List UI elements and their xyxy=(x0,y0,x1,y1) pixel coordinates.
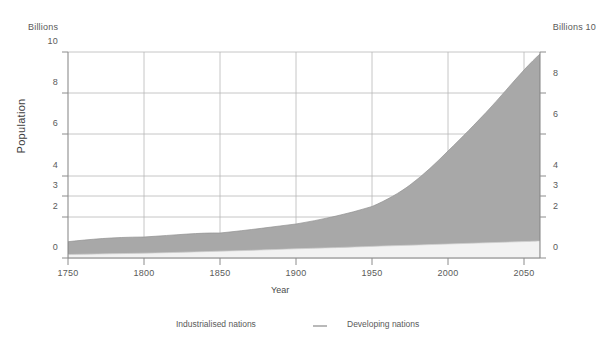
x-axis-ticks xyxy=(68,258,524,265)
y-tick-left-4: 4 xyxy=(36,160,58,170)
chart-canvas xyxy=(0,0,604,355)
line-marker-icon xyxy=(313,325,327,327)
legend-item-industrialised: Industrialised nations xyxy=(176,319,256,329)
x-tick-1900: 1900 xyxy=(276,268,316,278)
x-tick-2050: 2050 xyxy=(504,268,544,278)
population-area-chart: Billions Billions 10 10 8 6 4 3 2 0 8 6 … xyxy=(0,0,604,355)
x-tick-1750: 1750 xyxy=(48,268,88,278)
y-tick-left-10: 10 xyxy=(36,36,58,46)
y-tick-left-0: 0 xyxy=(36,242,58,252)
y-axis-left-ticks xyxy=(62,52,68,258)
y-tick-right-2: 2 xyxy=(553,201,575,211)
y-tick-right-0: 0 xyxy=(553,242,575,252)
unit-label-left: Billions xyxy=(28,22,58,32)
y-axis-right-ticks xyxy=(540,52,546,258)
legend-item-developing: Developing nations xyxy=(347,319,419,329)
chart-legend: Industrialised nations Developing nation… xyxy=(0,316,604,336)
x-axis-title: Year xyxy=(271,285,289,295)
x-tick-1950: 1950 xyxy=(352,268,392,278)
y-tick-right-6: 6 xyxy=(553,109,575,119)
y-tick-left-8: 8 xyxy=(36,77,58,87)
y-tick-right-4: 4 xyxy=(553,160,575,170)
y-tick-right-3: 3 xyxy=(553,180,575,190)
y-tick-left-2: 2 xyxy=(36,201,58,211)
y-tick-right-8: 8 xyxy=(553,68,575,78)
unit-label-right: Billions 10 xyxy=(553,22,596,32)
x-tick-1800: 1800 xyxy=(124,268,164,278)
y-axis-title: Population xyxy=(15,91,27,161)
x-tick-2000: 2000 xyxy=(428,268,468,278)
y-tick-left-6: 6 xyxy=(36,118,58,128)
x-tick-1850: 1850 xyxy=(200,268,240,278)
y-tick-left-3: 3 xyxy=(36,180,58,190)
